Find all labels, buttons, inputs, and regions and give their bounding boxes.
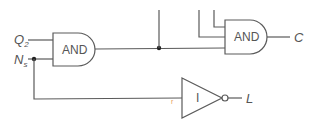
logic-diagram: Q2 Ns AND AND C I L r — [0, 0, 316, 125]
and-gate-2-label: AND — [234, 30, 260, 44]
inverter-bubble — [222, 95, 228, 101]
and-gate-2: AND — [225, 20, 267, 54]
output-label-c: C — [294, 30, 304, 45]
and-gate-1-label: AND — [62, 43, 88, 57]
input-label-q2: Q2 — [14, 32, 29, 49]
output-label-l: L — [246, 91, 253, 106]
wire-and2-input-3 — [214, 10, 225, 27]
input-label-ns: Ns — [14, 52, 27, 69]
inverter-label: I — [196, 91, 199, 105]
and-gate-1: AND — [53, 33, 95, 66]
wire-and2-input-2 — [199, 10, 225, 37]
inverter-gate: I — [182, 78, 228, 118]
annotation-mark: r — [171, 98, 174, 105]
